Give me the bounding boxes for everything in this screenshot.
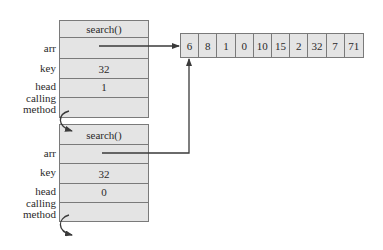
arr-reference-arrow-2: [102, 59, 189, 153]
return-arrow-1: [60, 111, 72, 131]
return-arrow-2: [60, 215, 72, 235]
reference-arrows: [0, 0, 383, 250]
